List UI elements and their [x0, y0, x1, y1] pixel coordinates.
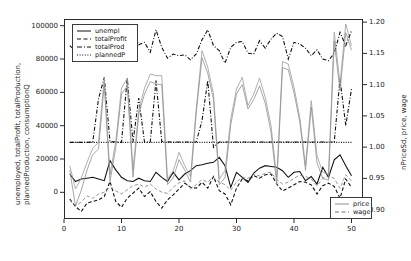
chart-root: 010203040500200004000060000800001000000.… — [0, 0, 411, 261]
y2-tick-label: 1.20 — [369, 18, 385, 26]
legend-key-dashdot — [76, 43, 92, 51]
y2-axis-title: nPriceSd, price, wage — [400, 95, 408, 171]
legend-item[interactable]: totalProd — [76, 43, 134, 51]
legend-key-solid — [76, 27, 92, 35]
y-axis-title-second-line: plannedProduction, consumptionQ — [23, 84, 31, 205]
legend-primary[interactable]: unempl totalProfit totalProd plannedP — [72, 24, 138, 62]
y-tick-label: 80000 — [18, 55, 58, 63]
x-tick-label: 10 — [117, 225, 126, 233]
legend-item[interactable]: plannedP — [76, 51, 134, 59]
x-tick-label: 20 — [175, 225, 184, 233]
y2-tick-label: 0.95 — [369, 174, 385, 182]
legend-item[interactable]: unempl — [76, 27, 134, 35]
legend-key-dotted — [76, 51, 92, 59]
x-tick-label: 50 — [347, 225, 356, 233]
x-tick-label: 40 — [290, 225, 299, 233]
legend-item[interactable]: price — [334, 200, 368, 208]
legend-label: totalProfit — [95, 35, 127, 43]
legend-label: totalProd — [95, 43, 124, 51]
legend-label: unempl — [95, 27, 120, 35]
y2-tick-label: 1.15 — [369, 49, 385, 57]
legend-key-dashed — [76, 35, 92, 43]
chart-canvas — [0, 0, 411, 261]
x-tick-label: 30 — [232, 225, 241, 233]
legend-key-dashed — [334, 208, 350, 216]
y2-tick-label: 1.00 — [369, 143, 385, 151]
legend-key-solid — [334, 200, 350, 208]
legend-label: price — [353, 200, 369, 208]
legend-label: wage — [353, 208, 370, 216]
legend-item[interactable]: wage — [334, 208, 368, 216]
y2-tick-label: 1.05 — [369, 112, 385, 120]
y-tick-label: 100000 — [18, 22, 58, 30]
y2-tick-label: 1.10 — [369, 81, 385, 89]
x-tick-label: 0 — [62, 225, 66, 233]
legend-label: plannedP — [95, 51, 125, 59]
y-axis-title: unemployed, totalProfit, totalProduction… — [14, 63, 22, 205]
legend-item[interactable]: totalProfit — [76, 35, 134, 43]
legend-secondary[interactable]: price wage — [330, 197, 372, 219]
